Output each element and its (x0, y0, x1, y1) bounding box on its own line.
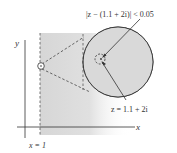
point-dot (100, 58, 102, 60)
point-label: z = 1.1 + 2i (111, 105, 149, 114)
diagram-canvas: y x x = 1 |z − (1.1 + 2i)| < 0.05 z = 1.… (0, 0, 177, 153)
neighborhood-label: |z − (1.1 + 2i)| < 0.05 (86, 10, 154, 19)
line-label: x = 1 (28, 141, 46, 150)
x-axis-label: x (135, 122, 140, 132)
y-axis-label: y (14, 38, 19, 48)
small-circle-dot (40, 65, 42, 67)
